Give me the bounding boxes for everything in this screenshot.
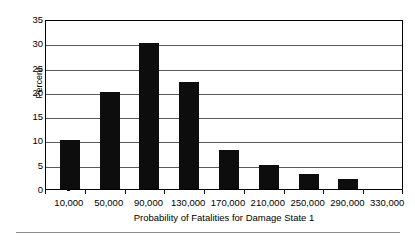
x-axis-tick-label: 10,000 <box>47 196 91 209</box>
x-axis-tick-mark <box>125 190 126 194</box>
x-axis-tick-marks <box>45 190 403 194</box>
y-axis-tick-label: 15 <box>24 112 43 122</box>
y-axis-tick-labels: 05101520253035 <box>24 20 43 190</box>
bar <box>100 92 120 189</box>
x-axis-tick-labels: 10,00050,00090,000130,000170,000210,0002… <box>45 196 403 209</box>
bottom-divider-rule <box>16 232 400 233</box>
x-axis-tick-label: 170,000 <box>206 196 250 209</box>
bar <box>299 174 319 189</box>
y-axis-tick-label: 10 <box>24 136 43 146</box>
bar <box>338 179 358 189</box>
x-axis-tick-label: 330,000 <box>365 196 409 209</box>
y-axis-tick-label: 5 <box>24 161 43 171</box>
x-axis-tick-label: 250,000 <box>286 196 330 209</box>
bar <box>219 150 239 189</box>
x-axis-tick-mark <box>204 190 205 194</box>
x-axis-tick-mark <box>164 190 165 194</box>
chart-figure: Percent 05101520253035 10,00050,00090,00… <box>0 0 415 242</box>
y-axis-tick-label: 0 <box>24 185 43 195</box>
x-axis-tick-mark <box>363 190 364 194</box>
x-axis-tick-mark <box>323 190 324 194</box>
bar <box>60 140 80 189</box>
y-axis-tick-label: 20 <box>24 88 43 98</box>
bar <box>179 82 199 189</box>
bars-series <box>46 21 402 189</box>
x-axis-tick-label: 210,000 <box>246 196 290 209</box>
x-axis-tick-mark <box>244 190 245 194</box>
x-axis-tick-mark <box>402 190 403 194</box>
y-axis-tick-label: 25 <box>24 64 43 74</box>
y-axis-tick-label: 30 <box>24 39 43 49</box>
x-axis-tick-label: 90,000 <box>126 196 170 209</box>
x-axis-tick-label: 50,000 <box>87 196 131 209</box>
x-axis-title: Probability of Fatalities for Damage Sta… <box>45 211 403 224</box>
y-axis-tick-label: 35 <box>24 15 43 25</box>
x-axis-tick-label: 130,000 <box>166 196 210 209</box>
x-axis-tick-mark <box>45 190 46 194</box>
bar <box>259 165 279 189</box>
x-axis-tick-label: 290,000 <box>325 196 369 209</box>
x-axis-tick-mark <box>85 190 86 194</box>
x-axis-tick-mark <box>284 190 285 194</box>
bar <box>139 43 159 189</box>
plot-area <box>45 20 403 190</box>
